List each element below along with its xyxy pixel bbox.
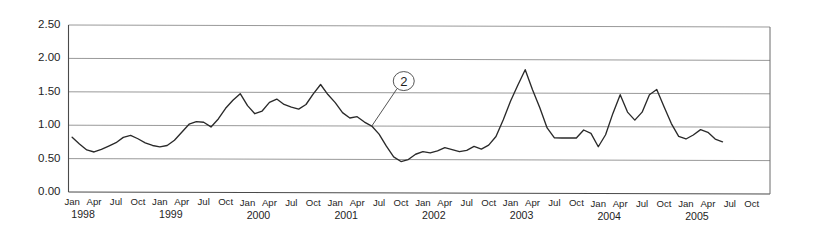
x-axis-month-label: Jan bbox=[678, 198, 693, 209]
x-axis-year-label: 1999 bbox=[159, 208, 183, 220]
x-axis-month-label: Oct bbox=[130, 196, 145, 207]
x-axis-month-label: Apr bbox=[613, 198, 629, 209]
x-axis-month-label: Jan bbox=[415, 197, 430, 208]
y-axis-tick-label: 0.00 bbox=[38, 185, 60, 197]
x-axis-year-labels: 19981999200020012002200320042005 bbox=[71, 208, 708, 222]
x-axis-month-label: Oct bbox=[481, 197, 496, 208]
x-axis-month-label: Jan bbox=[64, 196, 79, 207]
x-axis-month-label: Jan bbox=[503, 197, 518, 208]
x-axis-month-label: Jul bbox=[198, 196, 210, 207]
annotation-label: 2 bbox=[400, 74, 407, 89]
y-axis-labels: 0.000.501.001.502.002.50 bbox=[38, 18, 60, 197]
x-axis-month-label: Jul bbox=[110, 196, 122, 207]
y-axis-tick-label: 1.50 bbox=[38, 85, 60, 97]
gridline-1.50 bbox=[69, 92, 771, 94]
x-axis-month-label: Apr bbox=[700, 198, 716, 209]
x-axis-year-label: 2001 bbox=[334, 209, 358, 221]
x-axis-month-label: Jul bbox=[548, 197, 560, 208]
x-axis-month-label: Jul bbox=[724, 198, 736, 209]
x-axis-year-label: 2002 bbox=[422, 209, 446, 221]
x-axis-month-label: Jan bbox=[327, 197, 342, 208]
x-axis-month-label: Oct bbox=[744, 198, 759, 209]
x-axis-baseline bbox=[69, 192, 771, 194]
x-axis-month-label: Jul bbox=[636, 198, 648, 209]
annotation-leader-line bbox=[372, 89, 397, 126]
x-axis-year-label: 2003 bbox=[510, 209, 534, 221]
chart-container: 0.000.501.001.502.002.50 JanAprJulOctJan… bbox=[0, 0, 813, 237]
x-axis-month-label: Jan bbox=[152, 196, 167, 207]
x-axis-month-label: Apr bbox=[174, 196, 190, 207]
x-axis-year-label: 2004 bbox=[597, 210, 621, 222]
x-axis-year-label: 1998 bbox=[71, 208, 95, 220]
x-axis-year-label: 2000 bbox=[247, 209, 271, 221]
data-series-line bbox=[72, 70, 722, 162]
gridline-2.50 bbox=[69, 25, 771, 27]
y-axis-tick-label: 0.50 bbox=[38, 152, 60, 164]
gridline-2.00 bbox=[69, 58, 771, 60]
x-axis-month-label: Jul bbox=[285, 197, 297, 208]
line-chart: 0.000.501.001.502.002.50 JanAprJulOctJan… bbox=[0, 0, 813, 237]
x-axis-month-label: Jan bbox=[591, 198, 606, 209]
x-axis-year-label: 2005 bbox=[685, 210, 709, 222]
y-axis-tick-label: 2.00 bbox=[38, 51, 60, 63]
x-axis-month-label: Jul bbox=[461, 197, 473, 208]
x-axis-month-label: Oct bbox=[394, 197, 409, 208]
data-series-group bbox=[72, 70, 722, 162]
x-axis-month-label: Oct bbox=[569, 197, 584, 208]
x-axis-month-label: Apr bbox=[525, 197, 541, 208]
y-axis-tick-label: 2.50 bbox=[38, 18, 60, 30]
x-axis-month-label: Apr bbox=[262, 197, 278, 208]
gridline-1.00 bbox=[69, 125, 771, 127]
gridline-0.50 bbox=[69, 159, 771, 161]
annotation-group: 2 bbox=[372, 72, 415, 127]
x-axis-month-label: Oct bbox=[306, 197, 321, 208]
x-axis-month-labels: JanAprJulOctJanAprJulOctJanAprJulOctJanA… bbox=[64, 196, 759, 209]
y-axis-tick-label: 1.00 bbox=[38, 118, 60, 130]
x-axis-month-label: Jan bbox=[240, 197, 255, 208]
x-axis-month-label: Apr bbox=[437, 197, 453, 208]
x-axis-month-label: Apr bbox=[350, 197, 366, 208]
x-axis-month-label: Jul bbox=[373, 197, 385, 208]
x-axis-month-label: Apr bbox=[87, 196, 103, 207]
x-axis-month-label: Oct bbox=[218, 196, 233, 207]
x-axis-month-label: Oct bbox=[657, 198, 672, 209]
